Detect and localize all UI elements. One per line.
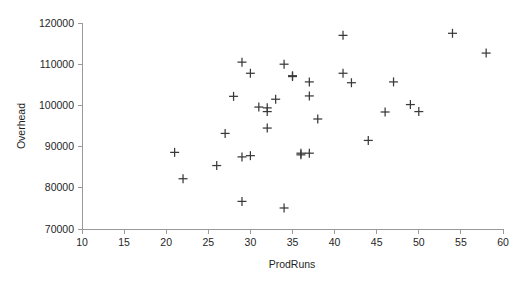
data-point: [170, 148, 179, 157]
data-point: [389, 77, 398, 86]
data-point: [246, 151, 255, 160]
data-point: [305, 149, 314, 158]
plot-area: 700008000090000100000110000120000 101520…: [0, 0, 523, 285]
y-tick-label: 100000: [39, 99, 74, 111]
x-tick-label: 40: [329, 236, 341, 248]
x-tick-label: 15: [118, 236, 130, 248]
data-point: [179, 174, 188, 183]
data-markers: [170, 29, 491, 213]
x-axis: 1015202530354045505560: [76, 229, 509, 248]
data-point: [339, 69, 348, 78]
y-tick-label: 90000: [45, 140, 74, 152]
data-point: [246, 69, 255, 78]
y-tick-label: 80000: [45, 181, 74, 193]
data-point: [305, 91, 314, 100]
data-point: [406, 100, 415, 109]
scatter-chart: 700008000090000100000110000120000 101520…: [0, 0, 523, 285]
data-point: [237, 58, 246, 67]
data-point: [414, 107, 423, 116]
data-point: [254, 103, 263, 112]
x-axis-title: ProdRuns: [269, 258, 316, 270]
x-tick-label: 50: [413, 236, 425, 248]
data-point: [339, 31, 348, 40]
y-tick-label: 120000: [39, 17, 74, 29]
data-point: [364, 136, 373, 145]
data-point: [221, 129, 230, 138]
data-point: [271, 95, 280, 104]
data-point: [296, 149, 305, 158]
y-tick-label: 110000: [40, 58, 74, 70]
x-tick-label: 25: [202, 236, 214, 248]
data-point: [448, 29, 457, 38]
data-point: [288, 72, 297, 81]
data-point: [263, 124, 272, 133]
data-point: [482, 49, 491, 58]
data-point: [237, 152, 246, 161]
data-point: [305, 77, 314, 86]
x-tick-label: 60: [497, 236, 509, 248]
data-point: [280, 203, 289, 212]
data-point: [229, 92, 238, 101]
x-tick-label: 35: [287, 236, 299, 248]
data-point: [347, 78, 356, 87]
x-tick-label: 20: [160, 236, 172, 248]
data-point: [313, 114, 322, 123]
data-point: [237, 197, 246, 206]
data-point: [381, 107, 390, 116]
y-tick-label: 70000: [45, 223, 74, 235]
x-tick-label: 10: [76, 236, 88, 248]
x-tick-label: 30: [245, 236, 257, 248]
x-tick-label: 45: [371, 236, 383, 248]
y-axis: 700008000090000100000110000120000: [39, 17, 82, 235]
y-axis-title: Overhead: [15, 103, 27, 149]
x-tick-label: 55: [455, 236, 467, 248]
data-point: [280, 60, 289, 69]
data-point: [212, 161, 221, 170]
